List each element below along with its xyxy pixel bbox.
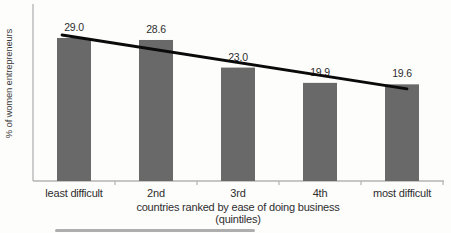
- category-label: 2nd: [147, 187, 165, 199]
- plot-area: 29.0least difficult28.62nd23.03rd19.94th…: [0, 0, 451, 233]
- bar-value-label: 29.0: [64, 21, 84, 33]
- category-label: 3rd: [230, 187, 245, 199]
- x-axis-title-line2: (quintiles): [33, 213, 443, 225]
- bar: [57, 38, 91, 181]
- bar: [385, 84, 419, 181]
- bar-value-label: 28.6: [146, 23, 166, 35]
- bar: [221, 68, 255, 181]
- bar: [303, 83, 337, 181]
- category-label: 4th: [313, 187, 328, 199]
- category-label: most difficult: [373, 187, 431, 199]
- category-label: least difficult: [45, 187, 102, 199]
- x-axis-title-line1: countries ranked by ease of doing busine…: [33, 201, 443, 213]
- bar-chart-figure: % of women entrepreneurs 29.0least diffi…: [0, 0, 451, 233]
- scan-artifact: [55, 229, 255, 232]
- x-axis-title: countries ranked by ease of doing busine…: [33, 201, 443, 225]
- bar: [139, 40, 173, 181]
- bar-value-label: 19.6: [392, 67, 412, 79]
